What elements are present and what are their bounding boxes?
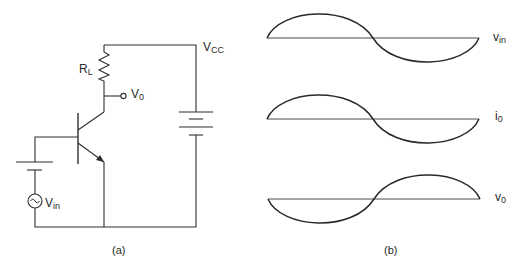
figure-canvas: RL V0 VCC Vin vin i0 v0 (a) (b) [0, 0, 525, 266]
caption-a: (a) [112, 244, 125, 256]
vcc-battery-icon [179, 112, 213, 135]
ac-source-icon [28, 194, 42, 208]
waveform-v0-label: v0 [495, 191, 506, 206]
vcc-label: VCC [203, 41, 224, 56]
waveforms-diagram [267, 14, 480, 223]
ground-return-wire [35, 135, 196, 227]
waveform-v0 [268, 175, 480, 223]
waveform-i0-label: i0 [495, 110, 503, 125]
vin-source-label: Vin [45, 197, 60, 212]
waveform-vin-label: vin [493, 31, 506, 46]
output-v0-label: V0 [131, 88, 144, 103]
top-supply-wire [104, 45, 196, 112]
npn-transistor-icon [78, 112, 104, 164]
resistor-rl-label: RL [79, 63, 93, 78]
waveform-vin [267, 14, 479, 62]
base-bias-battery-icon [16, 162, 53, 170]
caption-b: (b) [384, 244, 397, 256]
resistor-rl-icon [99, 45, 109, 112]
waveform-i0 [267, 95, 479, 143]
base-wire [35, 137, 78, 162]
circuit-and-waveforms [0, 0, 525, 266]
output-terminal-icon [121, 93, 126, 98]
